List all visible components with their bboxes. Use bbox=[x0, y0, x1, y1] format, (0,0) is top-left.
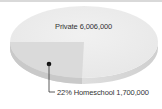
label-homeschool: 22% Homeschool 1,700,000 bbox=[57, 88, 149, 97]
slice-homeschool bbox=[10, 42, 84, 78]
label-private: Private 6,006,000 bbox=[55, 22, 112, 31]
